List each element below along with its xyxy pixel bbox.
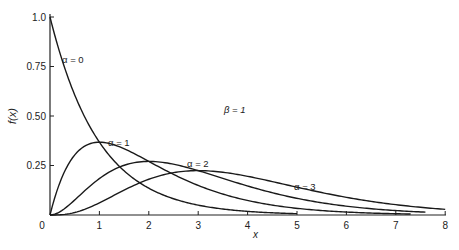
- x-tick-label: 0: [39, 220, 45, 231]
- label-alpha-1: α = 1: [108, 137, 130, 148]
- x-tick-label: 1: [97, 220, 103, 231]
- x-tick-label: 5: [294, 220, 300, 231]
- x-axis-label: x: [252, 229, 259, 240]
- curve-alpha-2: [50, 161, 425, 215]
- y-tick-label: 1.0: [32, 12, 46, 23]
- x-tick-label: 3: [195, 220, 201, 231]
- x-tick-label: 2: [146, 220, 152, 231]
- x-tick-label: 8: [442, 220, 448, 231]
- y-axis-label: f(x): [6, 108, 18, 124]
- gamma-density-chart: 012345678 0.250.500.751.0 f(x) x α = 0 α…: [0, 0, 459, 250]
- label-alpha-3: α = 3: [294, 181, 316, 192]
- x-tick-label: 6: [344, 220, 350, 231]
- label-alpha-0: α = 0: [62, 54, 84, 65]
- y-tick-label: 0.75: [27, 61, 47, 72]
- curve-alpha-3: [50, 171, 445, 215]
- x-tick-label: 7: [393, 220, 399, 231]
- label-alpha-2: α = 2: [187, 158, 209, 169]
- label-beta: β = 1: [223, 104, 246, 115]
- curves: [50, 17, 445, 215]
- axes: [50, 14, 446, 215]
- x-tick-label: 4: [245, 220, 251, 231]
- y-tick-label: 0.50: [27, 111, 47, 122]
- curve-alpha-0: [50, 17, 297, 214]
- curve-alpha-1: [50, 142, 411, 215]
- y-tick-label: 0.25: [27, 160, 47, 171]
